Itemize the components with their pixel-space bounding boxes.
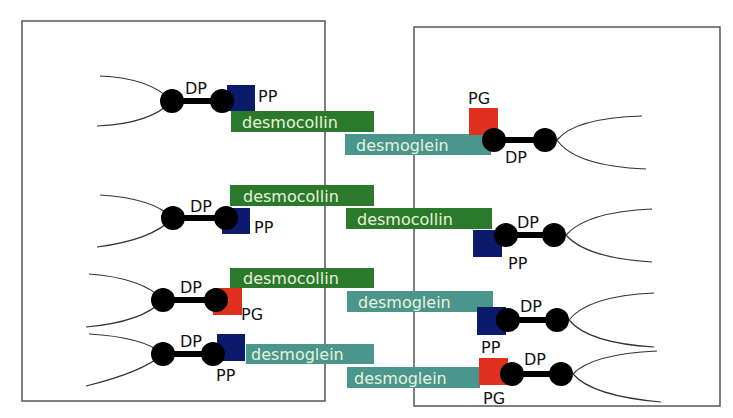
keratin-filament-icon (573, 351, 661, 402)
plaque-label: PP (216, 366, 236, 385)
dp-label: DP (524, 350, 546, 369)
plaque-label: PG (241, 305, 263, 324)
dp-head-icon (549, 362, 573, 386)
dp-head-icon (161, 206, 185, 230)
dp-head-icon (160, 89, 184, 113)
bar-label: desmocollin (243, 269, 339, 288)
dp-label: DP (520, 297, 542, 316)
dp-label: DP (505, 148, 527, 167)
dp-head-icon (482, 128, 506, 152)
dp-head-icon (496, 308, 520, 332)
desmosome-diagram: DP PP desmocollin desmoglein PG DP DP PP… (0, 0, 733, 418)
dp-label: DP (517, 213, 539, 232)
plaque-label: PP (254, 218, 274, 237)
dp-head-icon (500, 362, 524, 386)
dp-head-icon (204, 288, 228, 312)
dp-head-icon (201, 342, 225, 366)
dp-label: DP (180, 278, 202, 297)
plaque-label: PG (468, 89, 490, 108)
dp-head-icon (214, 206, 238, 230)
bar-label: desmoglein (251, 345, 344, 364)
keratin-filament-icon (557, 116, 646, 169)
dp-label: DP (185, 79, 207, 98)
bar-label: desmocollin (243, 187, 339, 206)
plaque-label: PP (481, 338, 501, 357)
dp-head-icon (151, 288, 175, 312)
bar-label: desmoglein (358, 293, 451, 312)
plaque-label: PP (258, 87, 278, 106)
plaque-label: PP (508, 254, 528, 273)
dp-head-icon (533, 128, 557, 152)
keratin-filament-icon (566, 209, 652, 262)
dp-head-icon (542, 223, 566, 247)
bar-label: desmoglein (354, 369, 447, 388)
dp-head-icon (151, 342, 175, 366)
bar-label: desmoglein (356, 136, 449, 155)
dp-label: DP (190, 197, 212, 216)
plaque-label: PG (483, 389, 505, 408)
bar-label: desmocollin (357, 210, 453, 229)
dp-head-icon (494, 223, 518, 247)
dp-label: DP (180, 332, 202, 351)
bar-label: desmocollin (242, 113, 338, 132)
dp-head-icon (210, 89, 234, 113)
dp-head-icon (545, 308, 569, 332)
keratin-filament-icon (86, 334, 163, 386)
keratin-filament-icon (569, 293, 654, 347)
